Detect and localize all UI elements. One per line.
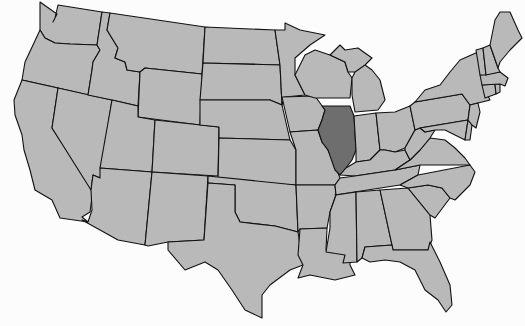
state-south-dakota[interactable] <box>200 63 282 105</box>
state-iowa[interactable] <box>282 96 325 132</box>
state-wyoming[interactable] <box>138 68 202 125</box>
us-map-svg <box>0 0 525 326</box>
us-map <box>0 0 525 326</box>
state-washington[interactable] <box>40 2 102 45</box>
state-new-mexico[interactable] <box>145 172 208 246</box>
state-maine[interactable] <box>490 12 522 68</box>
states-layer <box>14 2 522 318</box>
state-arizona[interactable] <box>82 168 152 245</box>
state-colorado[interactable] <box>152 120 219 176</box>
state-rhode-island[interactable] <box>495 84 500 94</box>
state-florida[interactable] <box>362 242 452 312</box>
state-connecticut[interactable] <box>482 84 496 98</box>
state-north-dakota[interactable] <box>203 27 280 65</box>
